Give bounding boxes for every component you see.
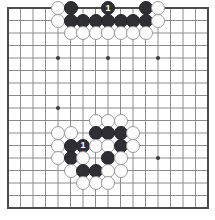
move-number-label: 1 [102, 2, 114, 14]
stone-white[interactable] [51, 1, 65, 15]
stone-white[interactable] [139, 26, 153, 40]
stone-white[interactable] [76, 176, 90, 190]
stone-white[interactable] [51, 151, 65, 165]
stone-white[interactable] [151, 1, 165, 15]
stone-white[interactable] [64, 126, 78, 140]
stone-white[interactable] [51, 14, 65, 28]
stone-black-move-1[interactable]: 1 [101, 1, 115, 15]
stone-black[interactable] [101, 126, 115, 140]
stone-white[interactable] [126, 26, 140, 40]
stone-white[interactable] [101, 26, 115, 40]
stone-black[interactable] [64, 1, 78, 15]
stone-white[interactable] [114, 164, 128, 178]
stone-white[interactable] [151, 14, 165, 28]
stone-white[interactable] [114, 151, 128, 165]
stone-white[interactable] [76, 151, 90, 165]
stone-white[interactable] [126, 126, 140, 140]
stone-white[interactable] [126, 139, 140, 153]
stone-black[interactable] [101, 151, 115, 165]
go-board-diagram: 11 [0, 0, 215, 220]
stone-white[interactable] [51, 126, 65, 140]
stone-white[interactable] [101, 176, 115, 190]
stone-white[interactable] [76, 26, 90, 40]
star-point [106, 56, 110, 60]
star-point [56, 56, 60, 60]
star-point [156, 56, 160, 60]
move-number-label: 1 [77, 140, 89, 152]
star-point [156, 156, 160, 160]
star-point [56, 106, 60, 110]
